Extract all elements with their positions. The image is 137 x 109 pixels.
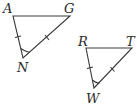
triangle-agn-outline xyxy=(13,16,70,58)
vertex-label-r: R xyxy=(78,35,88,48)
congruent-triangles-diagram xyxy=(0,0,137,109)
vertex-label-n: N xyxy=(17,61,28,74)
vertex-label-t: T xyxy=(126,35,135,48)
vertex-label-g: G xyxy=(64,2,74,15)
vertex-label-a: A xyxy=(3,2,12,15)
triangle-rtw xyxy=(86,48,132,88)
vertex-label-w: W xyxy=(86,92,99,105)
triangle-rtw-outline xyxy=(86,48,132,88)
tick-mark-rw xyxy=(87,67,93,69)
triangle-agn xyxy=(13,16,70,58)
tick-mark-an xyxy=(15,36,21,38)
